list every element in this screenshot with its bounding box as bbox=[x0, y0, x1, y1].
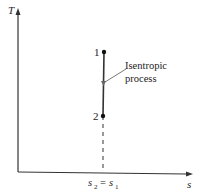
leader-line bbox=[105, 69, 126, 82]
x-axis-arrow-icon bbox=[186, 172, 193, 177]
process-label-line2: process bbox=[125, 73, 157, 84]
y-axis-arrow-icon bbox=[16, 8, 21, 15]
process-label-line1: Isentropic bbox=[125, 60, 167, 71]
point-1-label: 1 bbox=[94, 46, 100, 58]
ts-diagram: T s 1 2 Isentropic process s 2 = s 1 bbox=[0, 0, 204, 196]
svg-text:s: s bbox=[109, 177, 113, 188]
state-point-1 bbox=[102, 50, 106, 54]
x-axis-label: s bbox=[187, 178, 191, 190]
x-axis bbox=[18, 172, 186, 174]
svg-text:1: 1 bbox=[115, 183, 119, 191]
y-axis-label: T bbox=[8, 4, 15, 16]
svg-text:=: = bbox=[100, 177, 106, 188]
point-2-label: 2 bbox=[93, 110, 99, 122]
x-tick-label: s 2 = s 1 bbox=[88, 177, 119, 191]
svg-text:2: 2 bbox=[94, 183, 98, 191]
svg-text:s: s bbox=[88, 177, 92, 188]
state-point-2 bbox=[101, 114, 105, 118]
